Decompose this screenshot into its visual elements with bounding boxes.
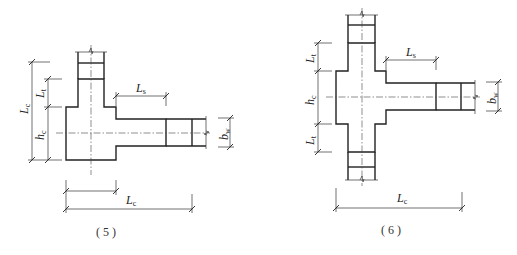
svg-text:Lt: Lt	[303, 135, 318, 146]
dimension-Lc-vertical: Lc	[17, 59, 62, 163]
dimension-bw: bw	[217, 115, 234, 150]
svg-text:Lc: Lc	[17, 103, 32, 115]
figure-caption: ( 6 )	[381, 223, 401, 237]
web-wall-extension	[166, 116, 209, 149]
dimension-Ls: Ls	[383, 45, 439, 70]
figure-caption: ( 5 )	[96, 225, 116, 239]
dimension-Ls: Ls	[113, 81, 169, 106]
dimension-Lt: Lt	[33, 76, 62, 110]
bottom-wall-stub	[345, 152, 378, 182]
dimension-Lc-horizontal: Lc	[63, 193, 195, 213]
top-wall-stub	[345, 11, 378, 43]
svg-text:Ls: Ls	[405, 45, 416, 60]
dimension-hc: hc	[33, 107, 51, 163]
dimension-Lt-bottom: Lt	[303, 135, 318, 146]
svg-text:hc: hc	[303, 95, 318, 105]
svg-text:Ls: Ls	[135, 81, 146, 96]
dimension-flange-width	[63, 180, 119, 213]
dimension-bw: bw	[485, 79, 502, 114]
edge-member-hatched-region	[66, 79, 166, 160]
figure-5: Lc Lt hc	[17, 45, 234, 239]
svg-text:bw: bw	[485, 92, 500, 104]
svg-text:hc: hc	[33, 130, 48, 140]
svg-text:bw: bw	[217, 128, 232, 140]
svg-text:Lt: Lt	[33, 88, 48, 99]
dimension-Lc-horizontal: Lc	[333, 188, 465, 212]
svg-text:Lc: Lc	[396, 191, 408, 206]
svg-text:Lt: Lt	[303, 53, 318, 64]
svg-text:Lc: Lc	[125, 193, 137, 208]
diagram-canvas: Lc Lt hc	[0, 0, 517, 255]
dimension-hc: hc	[303, 95, 318, 105]
figure-6: Lt hc Lt Ls	[303, 8, 502, 237]
